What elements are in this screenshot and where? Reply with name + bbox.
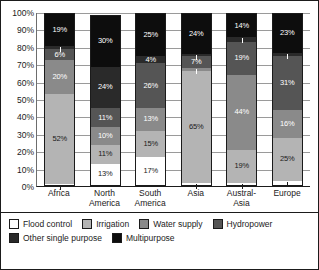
legend-label: Water supply [153,219,202,229]
bar-segment-label: 11% [98,114,112,122]
y-axis-tick: 50% [3,96,34,104]
y-axis-tick: 0% [3,183,34,191]
bar-segment: 16% [272,110,303,138]
bar-segment: 4% [135,56,166,63]
bar-segment: 13% [135,108,166,130]
legend-swatch [213,219,223,229]
bar-segment: 3% [272,181,303,186]
bar-segment: 17% [135,157,166,186]
bar-segment-label: 26% [144,82,158,90]
bar-segment: 25% [135,13,166,56]
legend-label: Flood control [23,219,72,229]
bar-segment-label: 20% [53,73,67,81]
bar-segment: 24% [181,13,212,54]
bar-segment-label: 13% [144,115,158,123]
legend-label: Other single purpose [23,233,102,243]
x-axis-label-line: Europe [271,189,302,199]
legend-label: Irrigation [96,219,129,229]
legend-item[interactable]: Other single purpose [9,233,102,243]
bar-segment-label: 25% [280,155,294,163]
bar-segment: 31% [272,56,303,110]
label-leader-line [60,47,61,52]
bar-column: 1%52%20%6%2%19% [44,13,75,186]
y-axis-tick: 100% [3,9,34,17]
bar-segment: 44% [226,75,257,150]
bar-segment: 2% [181,68,212,71]
bar-segment-label: 24% [189,30,203,38]
bar-column: 17%15%13%26%4%25% [135,13,166,186]
bar-segment: 65% [181,71,212,182]
bar-segment: 19% [226,42,257,75]
bar-column: 3%25%16%31%2%23% [272,13,303,186]
bar-segment: 14% [226,13,257,37]
bar-segment-label: 13% [98,170,112,178]
bar-segment: 11% [90,145,121,164]
bar-segment: 25% [272,138,303,181]
bar-segment-label: 25% [144,31,158,39]
bar-segment-label: 24% [98,83,112,91]
bar-segment: 2% [272,53,303,56]
label-leader-line [287,182,288,187]
bar-segment: 24% [90,67,121,109]
gridline [37,187,310,188]
bar-segment: 30% [90,15,121,67]
legend: Flood controlIrrigationWater supplyHydro… [1,212,318,269]
bar-segment-label: 30% [98,37,112,45]
legend-item[interactable]: Hydropower [213,219,273,229]
y-axis: 0%10%20%30%40%50%60%70%80%90%100% [3,9,34,191]
bar-segment: 2% [44,46,75,49]
bar-segment-label: 31% [280,79,294,87]
legend-item[interactable]: Multipurpose [112,233,175,243]
bar-segment: 19% [44,13,75,46]
legend-label: Hydropower [227,219,273,229]
bar-segment-label: 10% [98,132,112,140]
bar-segment: 26% [135,63,166,108]
legend-swatch [9,233,19,243]
bar-segment-label: 16% [280,120,294,128]
bar-segment-label: 15% [144,140,158,148]
bar-segment: 3% [226,37,257,42]
bar-column: 2%19%44%19%3%14% [226,13,257,186]
bar-segment: 2% [181,183,212,186]
bar-segment-label: 19% [53,26,67,34]
bar-segment-label: 23% [280,29,294,37]
bar-segment: 19% [226,150,257,183]
legend-item[interactable]: Flood control [9,219,72,229]
y-axis-tick: 80% [3,44,34,52]
y-axis-tick: 20% [3,148,34,156]
stacked-bars: 1%52%20%6%2%19%13%11%10%11%24%30%17%15%1… [37,13,310,186]
plot-canvas: 1%52%20%6%2%19%13%11%10%11%24%30%17%15%1… [36,13,310,187]
bar-segment: 13% [90,164,121,186]
y-axis-tick: 90% [3,26,34,34]
bar-segment-label: 11% [98,150,112,158]
label-leader-line [242,38,243,43]
x-axis-label-line: America [135,199,166,209]
bar-segment-label: 17% [144,167,158,175]
legend-item[interactable]: Water supply [139,219,202,229]
x-axis-label-line: Asia [180,189,211,199]
y-axis-tick: 60% [3,79,34,87]
x-axis-label-line: Asia [226,199,257,209]
bar-segment: 52% [44,94,75,184]
y-axis-tick: 30% [3,131,34,139]
bar-segment-label: 4% [146,56,156,64]
bar-segment: 10% [90,127,121,144]
bar-segment: 1% [181,54,212,56]
legend-swatch [112,233,122,243]
bar-segment-label: 44% [235,108,249,116]
bar-column: 13%11%10%11%24%30% [90,13,121,186]
legend-swatch [9,219,19,229]
legend-swatch [139,219,149,229]
bar-column: 2%65%2%7%1%24% [181,13,212,186]
legend-swatch [82,219,92,229]
bar-segment: 2% [226,183,257,186]
bar-segment: 15% [135,131,166,157]
label-leader-line [196,69,197,74]
chart-plot-region: 0%10%20%30%40%50%60%70%80%90%100% 1%52%2… [1,1,318,206]
bar-segment-label: 19% [235,54,249,62]
legend-item[interactable]: Irrigation [82,219,129,229]
bar-segment: 20% [44,60,75,95]
bar-segment: 11% [90,108,121,127]
y-axis-tick: 10% [3,166,34,174]
legend-row-2: Other single purposeMultipurpose [9,233,310,243]
